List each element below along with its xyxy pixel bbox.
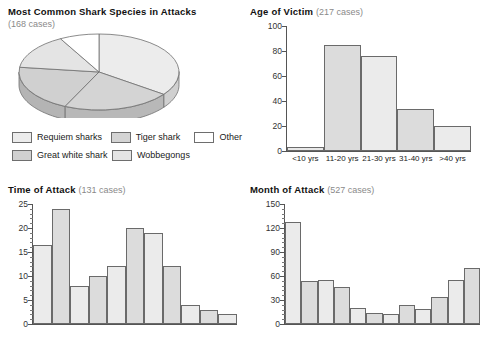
legend-item-requiem-sharks: Requiem sharks: [12, 132, 111, 143]
pie-chart-title: Most Common Shark Species in Attacks: [8, 6, 196, 17]
legend-item-wobbegongs: Wobbegongs: [112, 150, 190, 161]
bar: [144, 233, 163, 324]
legend-swatch-wobbegongs: [112, 150, 132, 161]
bar: [415, 309, 431, 324]
y-axis-tick-label: 0: [2, 319, 28, 329]
bar: [431, 297, 447, 324]
bar: [52, 209, 71, 324]
x-axis-line: [284, 324, 480, 325]
y-axis-tick-label: 80: [256, 46, 282, 56]
y-axis-tick-label: 20: [2, 223, 28, 233]
bar: [464, 268, 480, 324]
bar: [126, 228, 145, 324]
bar: [399, 305, 415, 324]
x-axis-tick-label: >40 yrs: [434, 154, 471, 163]
legend-item-other: Other: [194, 132, 242, 143]
bar: [287, 147, 324, 151]
y-axis-tick-label: 10: [2, 271, 28, 281]
y-axis-tick-mark: [28, 324, 33, 325]
bar: [397, 109, 434, 152]
y-axis-tick-label: 25: [2, 199, 28, 209]
bar: [448, 280, 464, 324]
legend-label-other: Other: [219, 132, 242, 142]
x-axis-tick-label: 11-20 yrs: [324, 154, 361, 163]
bar: [301, 281, 317, 324]
age-of-victim-panel: Age of Victim (217 cases) 020406080100<1…: [248, 4, 486, 176]
y-axis-tick-label: 0: [254, 319, 280, 329]
y-axis-tick-label: 5: [2, 295, 28, 305]
y-axis-tick-label: 0: [256, 146, 282, 156]
month-of-attack-panel: Month of Attack (527 cases) 030609012015…: [248, 184, 486, 338]
x-axis-line: [286, 151, 471, 152]
pie-svg: [14, 26, 184, 118]
bar: [383, 314, 399, 324]
legend-item-great-white-shark: Great white shark: [12, 150, 112, 161]
x-axis-labels: <10 yrs11-20 yrs21-30 yrs31-40 yrs>40 yr…: [287, 154, 471, 163]
y-axis-tick-label: 30: [254, 295, 280, 305]
legend-row-2: Great white shark Wobbegongs: [12, 146, 242, 164]
y-axis-tick-label: 40: [256, 96, 282, 106]
legend-swatch-requiem-sharks: [12, 132, 32, 143]
x-axis-tick-label: <10 yrs: [287, 154, 324, 163]
y-axis-tick-label: 90: [254, 247, 280, 257]
y-axis-tick-label: 100: [256, 21, 282, 31]
y-axis-tick-label: 150: [254, 199, 280, 209]
bar: [89, 276, 108, 324]
age-chart-plot-area: 020406080100<10 yrs11-20 yrs21-30 yrs31-…: [248, 4, 486, 176]
bar: [70, 286, 89, 324]
legend-swatch-great-white-shark: [12, 150, 32, 161]
legend-row-1: Requiem sharks Tiger shark Other: [12, 128, 242, 146]
month-chart-plot-area: 0306090120150: [248, 184, 486, 338]
bar: [334, 287, 350, 324]
time-chart-plot-area: 0510152025: [4, 184, 242, 338]
legend-swatch-other: [194, 132, 214, 143]
y-axis-tick-mark: [282, 151, 287, 152]
bar: [107, 266, 126, 324]
bar: [434, 126, 471, 151]
pie-legend: Requiem sharks Tiger shark Other Great w…: [12, 128, 242, 164]
y-axis-tick-label: 15: [2, 247, 28, 257]
bar: [285, 222, 301, 324]
y-axis-tick-label: 60: [254, 271, 280, 281]
x-axis-tick-label: 31-40 yrs: [397, 154, 434, 163]
shark-species-pie-panel: Most Common Shark Species in Attacks (16…: [4, 4, 242, 176]
bar: [163, 266, 182, 324]
legend-item-tiger-shark: Tiger shark: [111, 132, 195, 143]
y-axis-tick-label: 120: [254, 223, 280, 233]
bar: [366, 313, 382, 324]
bar-series: [33, 204, 237, 324]
legend-label-requiem-sharks: Requiem sharks: [37, 132, 102, 142]
y-axis-tick-mark: [280, 324, 285, 325]
y-axis-tick-label: 20: [256, 121, 282, 131]
legend-label-great-white-shark: Great white shark: [37, 150, 108, 160]
bar: [361, 56, 398, 151]
bar: [33, 245, 52, 324]
bar: [324, 45, 361, 151]
legend-label-wobbegongs: Wobbegongs: [137, 150, 190, 160]
x-axis-tick-label: 21-30 yrs: [361, 154, 398, 163]
bar: [350, 308, 366, 324]
bar: [318, 280, 334, 324]
bar-series: [285, 204, 480, 324]
bar: [181, 305, 200, 324]
legend-label-tiger-shark: Tiger shark: [136, 132, 181, 142]
bar: [218, 314, 237, 324]
x-axis-line: [32, 324, 237, 325]
bar-series: [287, 26, 471, 151]
bar: [200, 310, 219, 324]
legend-swatch-tiger-shark: [111, 132, 131, 143]
time-of-attack-panel: Time of Attack (131 cases) 0510152025: [4, 184, 242, 338]
pie-chart-graphic: [14, 26, 184, 118]
y-axis-tick-label: 60: [256, 71, 282, 81]
